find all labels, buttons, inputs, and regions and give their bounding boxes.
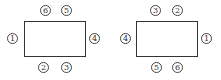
- seat-top-left: 6: [40, 5, 51, 16]
- right-table-diagram: 3 2 4 1 5 6: [110, 0, 220, 80]
- seat-bottom-left: 2: [38, 62, 49, 73]
- seat-bottom-left: 5: [151, 62, 162, 73]
- left-table-diagram: 6 5 1 4 2 3: [0, 0, 110, 80]
- seat-left: 4: [120, 33, 131, 44]
- seat-bottom-right: 3: [61, 62, 72, 73]
- seat-top-right: 5: [61, 5, 72, 16]
- table-rectangle: [24, 21, 86, 57]
- table-rectangle: [136, 21, 198, 57]
- seat-right: 4: [89, 33, 100, 44]
- seat-top-left: 3: [150, 5, 161, 16]
- seat-bottom-right: 6: [172, 62, 183, 73]
- seat-left: 1: [7, 33, 18, 44]
- seat-right: 1: [201, 33, 212, 44]
- seat-top-right: 2: [172, 5, 183, 16]
